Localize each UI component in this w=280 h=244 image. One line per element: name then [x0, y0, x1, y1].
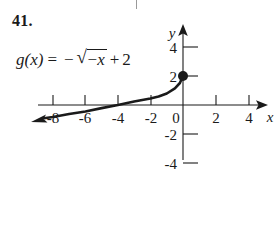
y-tick-label-pos4: 4 [170, 40, 178, 56]
x-tick-label-neg4: -4 [112, 110, 125, 126]
y-tick-label-neg4: -4 [165, 156, 178, 172]
curve-endpoint-dot [178, 71, 188, 81]
y-axis-label: y [167, 25, 176, 41]
y-tick-label-neg2: -2 [165, 127, 178, 143]
x-axis-label: x [266, 109, 274, 125]
x-tick-label-neg2: -2 [145, 110, 158, 126]
x-tick-label-origin: 0 [172, 110, 180, 126]
x-tick-label-pos2: 2 [212, 110, 220, 126]
figure-page: 41. g(x)=−√−x+2 [0, 0, 280, 244]
x-tick-label-pos4: 4 [245, 110, 253, 126]
graph-svg: -8 -6 -4 -2 0 2 4 4 2 -2 -4 y x [0, 18, 280, 218]
y-tick-label-pos2: 2 [170, 69, 178, 85]
coordinate-plane-graph: -8 -6 -4 -2 0 2 4 4 2 -2 -4 y x [0, 18, 280, 218]
page-edge-mark [136, 0, 137, 9]
x-axis-ticks [53, 95, 249, 105]
